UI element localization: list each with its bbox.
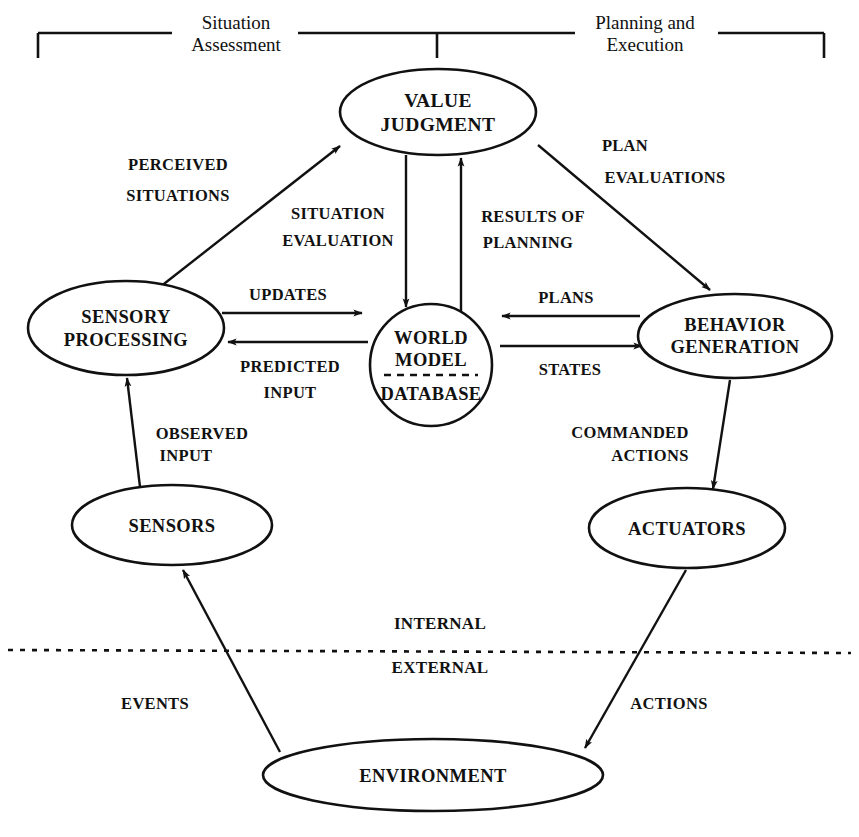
value-judgment-label-line1: VALUE xyxy=(404,90,472,111)
value-judgment-ellipse[interactable] xyxy=(340,69,536,155)
edge-events xyxy=(183,570,280,752)
label-predicted-input-line2: INPUT xyxy=(264,383,317,402)
label-situation-evaluation-line1: SITUATION xyxy=(291,204,385,223)
behavior-generation-label-line1: BEHAVIOR xyxy=(684,315,786,335)
diagram-svg: Situation Assessment Planning and Execut… xyxy=(0,0,859,837)
top-bracket-group: Situation Assessment Planning and Execut… xyxy=(38,12,824,58)
label-observed-input-line1: OBSERVED xyxy=(156,424,249,443)
label-perceived-situations-line1: PERCEIVED xyxy=(128,155,228,174)
label-plans: PLANS xyxy=(538,288,594,307)
bracket-right-label-line1: Planning and xyxy=(595,12,695,33)
edge-observed-input xyxy=(127,378,140,487)
label-commanded-actions-line2: ACTIONS xyxy=(611,446,688,465)
label-actions: ACTIONS xyxy=(630,694,707,713)
label-observed-input-line2: INPUT xyxy=(160,446,213,465)
value-judgment-label-line2: JUDGMENT xyxy=(381,114,496,135)
environment-label: ENVIRONMENT xyxy=(359,766,507,786)
divider-label-internal: INTERNAL xyxy=(394,614,486,633)
label-commanded-actions-line1: COMMANDED xyxy=(571,423,688,442)
divider-label-external: EXTERNAL xyxy=(392,658,489,677)
sensory-processing-ellipse[interactable] xyxy=(28,281,224,375)
label-results-of-planning-line2: PLANNING xyxy=(483,233,573,252)
bracket-left-label-line2: Assessment xyxy=(191,34,281,55)
label-states: STATES xyxy=(539,360,602,379)
actuators-label: ACTUATORS xyxy=(628,519,746,539)
diagram-canvas: Situation Assessment Planning and Execut… xyxy=(0,0,859,837)
label-results-of-planning-line1: RESULTS OF xyxy=(481,207,585,226)
node-actuators[interactable]: ACTUATORS xyxy=(589,488,785,568)
edge-actions xyxy=(585,570,686,748)
sensory-processing-label-line2: PROCESSING xyxy=(64,330,188,350)
node-environment[interactable]: ENVIRONMENT xyxy=(263,739,603,811)
node-sensors[interactable]: SENSORS xyxy=(72,485,272,565)
label-predicted-input-line1: PREDICTED xyxy=(240,357,340,376)
sensors-label: SENSORS xyxy=(128,516,215,536)
sensory-processing-label-line1: SENSORY xyxy=(81,307,171,327)
internal-external-divider-group: INTERNAL EXTERNAL xyxy=(8,614,851,677)
label-events: EVENTS xyxy=(121,694,189,713)
label-plan-evaluations-line1: PLAN xyxy=(602,136,648,155)
edge-commanded-actions xyxy=(713,380,730,489)
label-perceived-situations-line2: SITUATIONS xyxy=(126,186,230,205)
node-behavior-generation[interactable]: BEHAVIOR GENERATION xyxy=(638,294,832,378)
label-situation-evaluation-line2: EVALUATION xyxy=(282,231,394,250)
world-model-label-line3: DATABASE xyxy=(380,384,481,404)
label-updates: UPDATES xyxy=(249,285,327,304)
node-value-judgment[interactable]: VALUE JUDGMENT xyxy=(340,69,536,155)
node-world-model[interactable]: WORLD MODEL DATABASE xyxy=(370,304,492,426)
bracket-right-label-line2: Execution xyxy=(606,34,684,55)
world-model-label-line2: MODEL xyxy=(395,350,467,370)
world-model-label-line1: WORLD xyxy=(394,328,468,348)
behavior-generation-label-line2: GENERATION xyxy=(670,337,799,357)
bracket-left-label-line1: Situation xyxy=(202,12,271,33)
internal-external-dashed-line xyxy=(8,650,851,653)
label-plan-evaluations-line2: EVALUATIONS xyxy=(605,168,726,187)
node-sensory-processing[interactable]: SENSORY PROCESSING xyxy=(28,281,224,375)
behavior-generation-ellipse[interactable] xyxy=(638,294,832,378)
